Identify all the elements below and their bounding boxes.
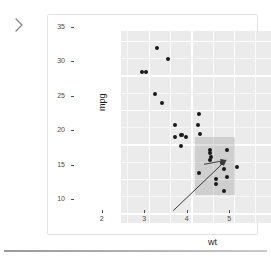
- data-point: [180, 133, 184, 137]
- y-tick-label: 20: [57, 126, 65, 133]
- data-point: [214, 182, 218, 186]
- data-point: [235, 165, 239, 169]
- data-point: [208, 148, 212, 152]
- x-tick-mark: [187, 210, 188, 213]
- data-point: [179, 144, 183, 148]
- bottom-divider: [4, 250, 267, 252]
- gridline-vertical: [191, 31, 192, 223]
- data-point: [153, 92, 157, 96]
- y-axis-label-text: mpg: [97, 93, 107, 111]
- gridline-horizontal-minor: [121, 58, 271, 59]
- chevron-right-icon[interactable]: [11, 15, 27, 35]
- plot-card: 101520253035 2345 wt mpg: [47, 14, 258, 235]
- y-tick-mark: [71, 130, 74, 131]
- y-tick-label: 30: [57, 57, 65, 64]
- x-tick-label: 5: [219, 215, 239, 222]
- data-point: [173, 123, 177, 127]
- y-tick-label: 35: [57, 23, 65, 30]
- gridline-horizontal: [121, 75, 271, 76]
- data-point: [184, 135, 188, 139]
- y-axis-label: mpg: [97, 93, 107, 111]
- data-point: [197, 171, 201, 175]
- screenshot-root: 101520253035 2345 wt mpg: [0, 0, 271, 257]
- gridline-vertical-minor: [255, 31, 256, 223]
- y-tick-mark: [71, 199, 74, 200]
- selection-rectangle[interactable]: [195, 137, 235, 196]
- data-point: [160, 101, 164, 105]
- y-tick-mark: [71, 27, 74, 28]
- data-point: [173, 135, 177, 139]
- data-point: [196, 123, 200, 127]
- gridline-horizontal: [121, 110, 271, 111]
- x-axis-label: wt: [121, 237, 271, 247]
- y-tick-mark: [71, 96, 74, 97]
- data-point: [155, 46, 159, 50]
- gridline-horizontal-minor: [121, 196, 271, 197]
- x-tick-label: 2: [92, 215, 112, 222]
- y-tick-label: 15: [57, 161, 65, 168]
- data-point: [198, 132, 202, 136]
- x-tick-mark: [229, 210, 230, 213]
- gridline-vertical-minor: [170, 31, 171, 223]
- gridline-vertical: [149, 31, 150, 223]
- y-tick-mark: [71, 165, 74, 166]
- x-tick-label: 4: [177, 215, 197, 222]
- y-tick-label: 10: [57, 195, 65, 202]
- data-point: [144, 70, 148, 74]
- y-tick-mark: [71, 61, 74, 62]
- x-tick-mark: [144, 210, 145, 213]
- plot-panel[interactable]: [121, 31, 271, 223]
- data-point: [166, 57, 170, 61]
- y-tick-label: 25: [57, 92, 65, 99]
- gridline-horizontal-minor: [121, 127, 271, 128]
- data-point: [222, 189, 226, 193]
- x-tick-mark: [102, 210, 103, 213]
- x-tick-label: 3: [134, 215, 154, 222]
- gridline-horizontal-minor: [121, 93, 271, 94]
- gridline-vertical-minor: [127, 31, 128, 223]
- gridline-horizontal: [121, 41, 271, 42]
- data-point: [214, 177, 218, 181]
- data-point: [197, 112, 201, 116]
